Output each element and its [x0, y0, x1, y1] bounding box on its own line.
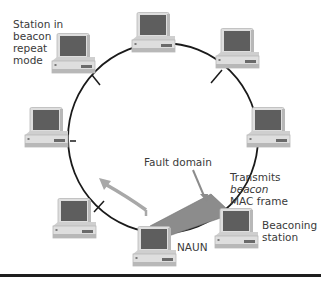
bottom-rule	[0, 274, 321, 277]
station-right[interactable]	[246, 107, 292, 149]
label-fault-domain: Fault domain	[144, 156, 212, 168]
label-beaconing-station: Beaconing station	[262, 219, 317, 243]
label-line: station	[262, 231, 317, 243]
station-bottom-left[interactable]	[52, 198, 98, 240]
station-left[interactable]	[24, 107, 70, 149]
station-top-right[interactable]	[215, 28, 261, 70]
label-line: mode	[13, 54, 63, 66]
station-naun[interactable]	[132, 226, 178, 268]
computer-icon	[52, 198, 98, 240]
label-line: MAC frame	[230, 195, 288, 207]
connector-top-left	[92, 75, 100, 85]
connector-top-right	[211, 70, 222, 83]
fault-domain-pointer	[193, 170, 204, 196]
computer-icon	[132, 226, 178, 268]
station-top[interactable]	[131, 12, 177, 54]
computer-icon	[214, 208, 260, 250]
label-line: Transmits	[230, 171, 288, 183]
label-line: repeat	[13, 42, 63, 54]
label-naun: NAUN	[177, 241, 208, 253]
computer-icon	[131, 12, 177, 54]
computer-icon	[24, 107, 70, 149]
computer-icon	[215, 28, 261, 70]
label-station-repeat: Station in beacon repeat mode	[13, 18, 63, 66]
beacon-direction-arrow	[105, 184, 146, 210]
label-line-italic: beacon	[230, 183, 288, 195]
label-line: Station in	[13, 18, 63, 30]
station-beaconing[interactable]	[214, 208, 260, 250]
label-line: beacon	[13, 30, 63, 42]
token-ring-diagram: Station in beacon repeat mode Fault doma…	[0, 0, 321, 283]
label-line: Beaconing	[262, 219, 317, 231]
label-transmits-beacon: Transmits beacon MAC frame	[230, 171, 288, 207]
computer-icon	[246, 107, 292, 149]
